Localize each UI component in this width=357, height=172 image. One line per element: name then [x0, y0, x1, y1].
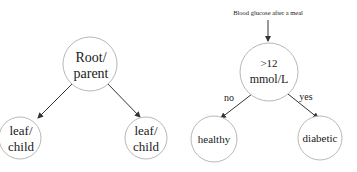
- input-label: Blood glucose after a meal: [233, 9, 303, 16]
- generic-tree: Root/ parent leaf/ child leaf/ child: [0, 37, 167, 159]
- healthy-node: healthy: [191, 116, 237, 162]
- decision-tree-figure: Root/ parent leaf/ child leaf/ child Blo…: [0, 0, 357, 172]
- root-node-line1: Root/: [75, 50, 106, 65]
- edge-yes-label: yes: [299, 91, 312, 102]
- right-leaf-line1: leaf/: [134, 123, 157, 138]
- left-leaf-node: leaf/ child: [0, 117, 41, 159]
- diabetic-label: diabetic: [303, 132, 338, 144]
- left-leaf-line2: child: [8, 139, 34, 154]
- left-leaf-line1: leaf/: [9, 123, 32, 138]
- edge-root-to-right-leaf: [108, 84, 140, 117]
- edge-root-to-left-leaf: [38, 84, 72, 118]
- threshold-line1: >12: [260, 57, 277, 69]
- example-tree: Blood glucose after a meal no yes >12 mm…: [191, 9, 342, 162]
- threshold-node: >12 mmol/L: [240, 43, 298, 101]
- right-leaf-line2: child: [133, 139, 159, 154]
- diabetic-node: diabetic: [298, 116, 342, 160]
- root-node-line2: parent: [74, 66, 109, 81]
- right-leaf-node: leaf/ child: [125, 117, 167, 159]
- edge-no-label: no: [224, 92, 234, 103]
- threshold-line2: mmol/L: [250, 72, 289, 86]
- healthy-label: healthy: [198, 133, 231, 145]
- root-node: Root/ parent: [63, 37, 117, 91]
